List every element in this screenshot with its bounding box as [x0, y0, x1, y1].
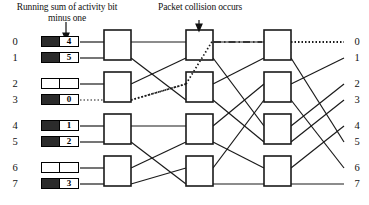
input-port-label-6: 6: [8, 163, 22, 173]
input-port-label-7: 7: [8, 179, 22, 189]
input-cell-1[interactable]: 5: [41, 52, 79, 63]
switch-stage1-0[interactable]: [104, 30, 131, 60]
input-port-label-5: 5: [8, 137, 22, 147]
output-links: [291, 42, 344, 184]
running-sum-value-cell-3: 0: [60, 95, 78, 104]
input-cell-0[interactable]: 4: [41, 36, 79, 47]
link-s1-1a: [131, 58, 186, 84]
link-s1-3a: [131, 142, 186, 168]
input-links: [80, 42, 104, 184]
running-sum-value-cell-5: 2: [60, 137, 78, 146]
stage2-switches: [186, 30, 213, 186]
stage1-switches: [104, 30, 131, 186]
running-sum-value-cell-6: [60, 163, 78, 172]
input-cell-7[interactable]: 3: [41, 178, 79, 189]
input-cell-5[interactable]: 2: [41, 136, 79, 147]
stage1-to-stage2-links: [131, 42, 186, 184]
link-s1-2b: [131, 142, 186, 184]
output-port-label-7: 7: [350, 179, 364, 189]
running-sum-value-cell-7: 3: [60, 179, 78, 188]
activity-bit-5: [42, 137, 60, 146]
output-port-label-0: 0: [350, 37, 364, 47]
switch-stage1-3[interactable]: [104, 156, 131, 186]
stage2-to-stage3-links: [213, 42, 264, 184]
activity-bit-0: [42, 37, 60, 46]
link-s2-2b: [213, 142, 264, 168]
switch-stage2-3[interactable]: [186, 156, 213, 186]
link-s2-1b: [213, 100, 264, 142]
input-port-label-0: 0: [8, 37, 22, 47]
collision-annotation: Packet collision occurs: [158, 2, 298, 13]
output-port-label-6: 6: [350, 163, 364, 173]
running-sum-value-cell-4: 1: [60, 121, 78, 130]
switch-stage3-3[interactable]: [264, 156, 291, 186]
running-sum-value-1: 5: [67, 53, 72, 62]
activity-bit-7: [42, 179, 60, 188]
output-link-6: [291, 126, 344, 168]
output-port-label-1: 1: [350, 53, 364, 63]
link-s1-0b: [131, 58, 186, 100]
link-s2-3a: [213, 100, 264, 168]
input-port-label-3: 3: [8, 95, 22, 105]
output-link-5: [291, 100, 344, 142]
activity-bit-6: [42, 163, 60, 172]
link-s2-0b: [213, 58, 264, 126]
switch-stage1-1[interactable]: [104, 72, 131, 102]
running-sum-value-5: 2: [67, 137, 72, 146]
output-port-label-5: 5: [350, 137, 364, 147]
input-cell-6[interactable]: [41, 162, 79, 173]
activity-bit-4: [42, 121, 60, 130]
input-port-label-4: 4: [8, 121, 22, 131]
running-sum-value-7: 3: [67, 179, 72, 188]
link-s1-3b: [131, 168, 186, 184]
activity-bit-1: [42, 53, 60, 62]
network-diagram: Running sum of activity bit minus one Pa…: [0, 0, 369, 205]
running-sum-value-cell-2: [60, 79, 78, 88]
switch-stage1-2[interactable]: [104, 114, 131, 144]
link-s2-2a: [213, 84, 264, 126]
input-cell-3[interactable]: 0: [41, 94, 79, 105]
running-sum-value-3: 0: [67, 95, 72, 104]
output-port-label-4: 4: [350, 121, 364, 131]
link-s2-1a: [213, 58, 264, 84]
running-sum-value-cell-0: 4: [60, 37, 78, 46]
stage3-switches: [264, 30, 291, 186]
output-link-4: [291, 84, 344, 126]
running-sum-value-cell-1: 5: [60, 53, 78, 62]
running-sum-value-4: 1: [67, 121, 72, 130]
input-cell-4[interactable]: 1: [41, 120, 79, 131]
switch-stage3-2[interactable]: [264, 114, 291, 144]
output-port-label-3: 3: [350, 95, 364, 105]
input-port-label-1: 1: [8, 53, 22, 63]
switch-stage2-2[interactable]: [186, 114, 213, 144]
switch-stage3-0[interactable]: [264, 30, 291, 60]
activity-bit-2: [42, 79, 60, 88]
output-link-3: [291, 100, 344, 168]
activity-bit-3: [42, 95, 60, 104]
input-port-label-2: 2: [8, 79, 22, 89]
input-cell-2[interactable]: [41, 78, 79, 89]
running-sum-annotation: Running sum of activity bit minus one: [4, 2, 130, 24]
switch-stage3-1[interactable]: [264, 72, 291, 102]
running-sum-annotation-line2: minus one: [4, 13, 130, 24]
running-sum-value-0: 4: [67, 37, 72, 46]
running-sum-annotation-line1: Running sum of activity bit: [4, 2, 130, 13]
output-port-label-2: 2: [350, 79, 364, 89]
